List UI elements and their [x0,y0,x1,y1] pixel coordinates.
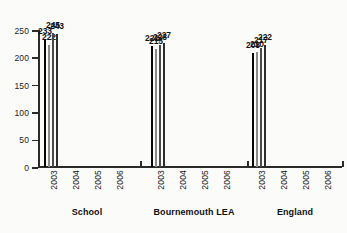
bar[interactable] [163,43,165,167]
year-label-cell: 2005 [296,170,316,190]
bar[interactable] [151,46,153,167]
bar[interactable] [56,34,58,167]
y-axis-tick-label: 150 [15,80,29,90]
bar-slot: 215 [155,30,157,167]
x-axis-year-label: 2004 [71,170,81,190]
y-axis-tick: 150 [32,85,38,87]
year-label-cell: 2006 [318,170,338,190]
x-axis-year-label: 2005 [93,170,103,190]
year-label-group: 2003200420052006 [151,170,237,204]
bar-slot: 233 [44,30,46,167]
bar-value-label: 243 [50,21,64,31]
year-label-cell: 2005 [88,170,108,190]
y-axis-tick-label: 0 [24,163,29,173]
x-axis-separator-tick [247,161,249,167]
y-axis-line [38,30,40,167]
x-axis-year-label: 2003 [156,170,166,190]
x-axis-year-label: 2005 [301,170,311,190]
x-axis-year-label: 2003 [257,170,267,190]
y-axis-tick: 200 [32,57,38,59]
year-label-cell: 2006 [217,170,237,190]
year-label-cell: 2003 [151,170,171,190]
bar-value-label: 222 [258,32,272,42]
bar-chart: 050100150200250 233222245243221215223227… [0,0,347,233]
bar[interactable] [260,48,262,167]
y-axis-tick-label: 100 [15,108,29,118]
year-label-cell: 2006 [110,170,130,190]
y-axis-tick-label: 250 [15,26,29,36]
bar[interactable] [256,52,258,167]
bar[interactable] [48,45,50,167]
y-axis-tick: 100 [32,112,38,114]
bar[interactable] [44,39,46,167]
x-axis-line [38,166,342,168]
year-label-cell: 2004 [173,170,193,190]
year-label-cell: 2005 [195,170,215,190]
bar-slot: 221 [151,30,153,167]
bar-slot: 222 [48,30,50,167]
year-label-group: 2003200420052006 [252,170,338,204]
y-axis-tick: 50 [32,140,38,142]
bar-slot: 217 [260,30,262,167]
bar[interactable] [264,45,266,167]
x-axis-year-label: 2006 [323,170,333,190]
bar-slot: 223 [159,30,161,167]
bar-slot: 243 [56,30,58,167]
bar[interactable] [52,33,54,167]
x-axis-year-label: 2004 [178,170,188,190]
year-label-cell: 2003 [252,170,272,190]
x-axis-year-label: 2003 [49,170,59,190]
x-axis-year-label: 2004 [279,170,289,190]
x-axis-group-label: England [252,207,338,217]
bar-slot: 245 [52,30,54,167]
y-axis-tick: 0 [32,167,38,169]
bar-slot: 227 [163,30,165,167]
y-axis-tick-label: 50 [19,135,29,145]
bar[interactable] [159,45,161,167]
year-label-cell: 2003 [44,170,64,190]
bar-slot: 222 [264,30,266,167]
y-axis-tick-label: 200 [15,53,29,63]
year-label-group: 2003200420052006 [44,170,130,204]
bar-slot: 208 [252,30,254,167]
bar-slot: 210 [256,30,258,167]
x-axis-year-label: 2006 [115,170,125,190]
x-axis-year-label: 2006 [222,170,232,190]
x-axis-group-label: Bournemouth LEA [151,207,237,217]
x-axis-separator-tick [140,161,142,167]
year-label-cell: 2004 [274,170,294,190]
x-axis-separator-tick [342,161,344,167]
x-axis-year-label: 2005 [200,170,210,190]
bar[interactable] [252,53,254,167]
year-label-cell: 2004 [66,170,86,190]
bar[interactable] [155,49,157,167]
bar-value-label: 227 [157,30,171,40]
x-axis-group-label: School [44,207,130,217]
